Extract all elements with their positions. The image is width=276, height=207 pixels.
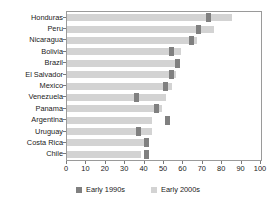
category-label-nicaragua: Nicaragua: [0, 36, 63, 43]
legend-item-early-2000s[interactable]: Early 2000s: [151, 186, 200, 193]
category-tick: [63, 142, 66, 143]
value-tick-label: 10: [81, 165, 89, 172]
value-tick-label: 70: [198, 165, 206, 172]
bar-row: [67, 14, 261, 21]
marker-early-1990s: [134, 93, 139, 102]
legend-label: Early 1990s: [86, 186, 125, 193]
value-tick-label: 40: [139, 165, 147, 172]
bar-row: [67, 94, 261, 101]
bar-row: [67, 71, 261, 78]
marker-early-1990s: [144, 138, 149, 147]
bar-row: [67, 151, 261, 158]
category-label-mexico: Mexico: [0, 82, 63, 89]
category-tick: [63, 51, 66, 52]
category-label-peru: Peru: [0, 25, 63, 32]
category-tick: [63, 17, 66, 18]
bar-row: [67, 48, 261, 55]
category-label-bolivia: Bolivia: [0, 48, 63, 55]
bar-row: [67, 105, 261, 112]
category-tick: [63, 85, 66, 86]
category-tick: [63, 96, 66, 97]
bar-row: [67, 139, 261, 146]
bar-early-2000s: [67, 48, 181, 55]
bar-early-2000s: [67, 94, 166, 101]
bar-row: [67, 60, 261, 67]
value-tick-label: 100: [254, 165, 266, 172]
bar-row: [67, 26, 261, 33]
category-tick: [63, 74, 66, 75]
marker-early-1990s: [169, 70, 174, 79]
bar-chart: HondurasPeruNicaraguaBoliviaBrazilEl Sal…: [0, 0, 276, 207]
marker-early-1990s: [144, 150, 149, 159]
category-label-chile: Chile: [0, 150, 63, 157]
legend-swatch-icon: [151, 187, 157, 193]
value-tick-label: 20: [101, 165, 109, 172]
value-tick-label: 80: [217, 165, 225, 172]
category-tick: [63, 131, 66, 132]
bar-early-2000s: [67, 71, 176, 78]
bar-row: [67, 117, 261, 124]
bar-early-2000s: [67, 139, 148, 146]
marker-early-1990s: [136, 127, 141, 136]
category-label-argentina: Argentina: [0, 116, 63, 123]
category-axis-labels: HondurasPeruNicaraguaBoliviaBrazilEl Sal…: [0, 11, 63, 161]
marker-early-1990s: [169, 47, 174, 56]
marker-early-1990s: [175, 59, 180, 68]
category-tick: [63, 108, 66, 109]
bar-early-2000s: [67, 105, 162, 112]
bar-early-2000s: [67, 60, 180, 67]
legend-swatch-icon: [76, 187, 82, 193]
category-label-el-salvador: El Salvador: [0, 71, 63, 78]
value-tick-label: 90: [236, 165, 244, 172]
bar-early-2000s: [67, 151, 141, 158]
category-label-uruguay: Uruguay: [0, 128, 63, 135]
value-axis-labels: 0102030405060708090100: [66, 165, 262, 177]
category-tick: [63, 28, 66, 29]
bar-row: [67, 128, 261, 135]
value-tick-label: 60: [178, 165, 186, 172]
marker-early-1990s: [163, 82, 168, 91]
category-label-venezuela: Venezuela: [0, 93, 63, 100]
chart-legend: Early 1990sEarly 2000s: [0, 186, 276, 193]
category-tick: [63, 153, 66, 154]
value-tick-label: 50: [159, 165, 167, 172]
marker-early-1990s: [154, 104, 159, 113]
bars-container: [67, 12, 261, 160]
category-label-brazil: Brazil: [0, 59, 63, 66]
bar-row: [67, 83, 261, 90]
bar-row: [67, 37, 261, 44]
bar-early-2000s: [67, 117, 152, 124]
category-label-panama: Panama: [0, 105, 63, 112]
category-label-costa-rica: Costa Rica: [0, 139, 63, 146]
value-tick-label: 0: [64, 165, 68, 172]
bar-early-2000s: [67, 26, 214, 33]
category-tick: [63, 39, 66, 40]
category-tick: [63, 119, 66, 120]
category-label-honduras: Honduras: [0, 14, 63, 21]
legend-label: Early 2000s: [161, 186, 200, 193]
value-tick-label: 30: [120, 165, 128, 172]
bar-early-2000s: [67, 83, 172, 90]
category-tick: [63, 62, 66, 63]
marker-early-1990s: [189, 36, 194, 45]
marker-early-1990s: [165, 116, 170, 125]
marker-early-1990s: [206, 13, 211, 22]
legend-item-early-1990s[interactable]: Early 1990s: [76, 186, 125, 193]
bar-early-2000s: [67, 37, 197, 44]
marker-early-1990s: [196, 25, 201, 34]
